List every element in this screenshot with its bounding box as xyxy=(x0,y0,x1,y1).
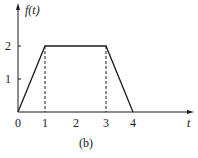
x-tick-label-3: 3 xyxy=(103,116,109,130)
figure-caption: (b) xyxy=(79,136,93,150)
x-tick-label-1: 1 xyxy=(42,116,48,130)
series-f-of-t xyxy=(18,46,133,112)
y-axis-arrow-icon xyxy=(16,3,20,10)
x-tick-label-2: 2 xyxy=(73,116,79,130)
y-axis-label: f(t) xyxy=(25,3,40,17)
x-axis-arrow-icon xyxy=(187,110,194,114)
y-tick-label-1: 1 xyxy=(5,72,11,86)
trapezoid-pulse-chart: f(t) 2 1 0 1 2 3 4 t (b) xyxy=(0,0,198,158)
x-tick-label-0: 0 xyxy=(15,116,21,130)
x-axis-label: t xyxy=(187,116,191,130)
y-tick-label-2: 2 xyxy=(5,39,11,53)
x-tick-label-4: 4 xyxy=(130,116,136,130)
